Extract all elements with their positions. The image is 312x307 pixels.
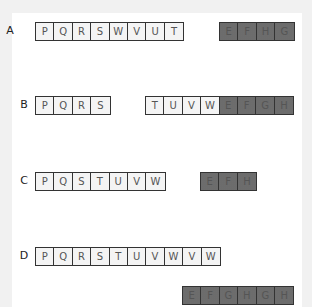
row-b-plain-strip-2: T U V W E F G H bbox=[145, 96, 294, 115]
cell: P bbox=[36, 23, 54, 40]
cell: T bbox=[91, 173, 109, 190]
cell: W bbox=[201, 97, 219, 114]
cell: W bbox=[165, 248, 183, 265]
cell: P bbox=[36, 248, 54, 265]
cell: W bbox=[202, 248, 220, 265]
cell: Q bbox=[54, 97, 72, 114]
shaded-cell: H bbox=[275, 287, 293, 304]
cell: S bbox=[91, 248, 109, 265]
cell: V bbox=[183, 97, 201, 114]
row-d-plain-strip: P Q R S T U V W V W bbox=[35, 247, 221, 266]
shaded-cell: E bbox=[220, 23, 238, 40]
shaded-cell: F bbox=[238, 23, 256, 40]
cell: R bbox=[73, 23, 91, 40]
cell: T bbox=[165, 23, 183, 40]
cell: W bbox=[110, 23, 128, 40]
row-b-plain-strip-1: P Q R S bbox=[35, 96, 111, 115]
shaded-cell: E bbox=[220, 97, 238, 114]
shaded-cell: H bbox=[257, 23, 275, 40]
row-d-shaded-strip: E F G H G H bbox=[182, 286, 294, 305]
cell: V bbox=[183, 248, 201, 265]
cell: Q bbox=[54, 173, 72, 190]
cell: U bbox=[146, 23, 164, 40]
cell: R bbox=[73, 248, 91, 265]
cell: V bbox=[146, 248, 164, 265]
shaded-cell: H bbox=[238, 173, 256, 190]
cell: U bbox=[110, 173, 128, 190]
cell: Q bbox=[54, 248, 72, 265]
cell: Q bbox=[54, 23, 72, 40]
row-label-d: D bbox=[18, 249, 30, 262]
shaded-cell: G bbox=[220, 287, 238, 304]
cell: T bbox=[110, 248, 128, 265]
shaded-cell: E bbox=[183, 287, 201, 304]
cell: S bbox=[73, 173, 91, 190]
cell: W bbox=[146, 173, 164, 190]
shaded-cell: E bbox=[201, 173, 219, 190]
shaded-cell: F bbox=[219, 173, 237, 190]
shaded-cell: H bbox=[238, 287, 256, 304]
shaded-cell: H bbox=[275, 97, 293, 114]
shaded-cell: G bbox=[256, 97, 274, 114]
shaded-cell: G bbox=[275, 23, 293, 40]
cell: V bbox=[128, 23, 146, 40]
cell: S bbox=[91, 97, 109, 114]
cell: T bbox=[146, 97, 164, 114]
cell: U bbox=[164, 97, 182, 114]
cell: R bbox=[73, 97, 91, 114]
row-c-shaded-strip: E F H bbox=[200, 172, 257, 191]
row-a-shaded-strip: E F H G bbox=[219, 22, 295, 41]
row-label-b: B bbox=[18, 98, 30, 111]
row-label-a: A bbox=[4, 24, 16, 37]
cell: P bbox=[36, 97, 54, 114]
shaded-cell: G bbox=[257, 287, 275, 304]
row-label-c: C bbox=[18, 174, 30, 187]
cell: P bbox=[36, 173, 54, 190]
shaded-cell: F bbox=[201, 287, 219, 304]
cell: S bbox=[91, 23, 109, 40]
row-a-plain-strip: P Q R S W V U T bbox=[35, 22, 184, 41]
shaded-cell: F bbox=[238, 97, 256, 114]
row-c-plain-strip: P Q S T U V W bbox=[35, 172, 166, 191]
cell: U bbox=[128, 248, 146, 265]
cell: V bbox=[128, 173, 146, 190]
